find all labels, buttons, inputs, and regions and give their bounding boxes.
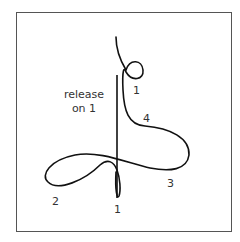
release-annotation: release on 1 (62, 88, 106, 116)
annotation-line-2: on 1 (62, 102, 106, 116)
annotation-line-1: release (62, 88, 106, 102)
beat-label-2: 2 (52, 196, 59, 207)
beat-label-1-bottom: 1 (114, 204, 121, 215)
beat-label-1-top: 1 (133, 85, 140, 96)
beat-label-4: 4 (143, 113, 150, 124)
beat-label-3: 3 (167, 178, 174, 189)
